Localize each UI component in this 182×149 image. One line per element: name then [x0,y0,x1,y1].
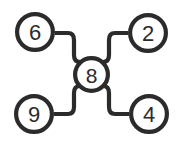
edge-bottom-left-to-center [54,86,83,114]
node-label-bottom-left: 9 [28,102,40,127]
node-bottom-left[interactable]: 9 [16,96,52,132]
node-bottom-right[interactable]: 4 [131,96,167,132]
node-label-top-left: 6 [29,20,41,45]
node-link-diagram: 6 2 9 4 8 [0,0,182,149]
node-label-top-right: 2 [142,21,154,46]
diagram-canvas: 6 2 9 4 8 [0,0,182,149]
node-label-bottom-right: 4 [143,102,155,127]
node-label-center: 8 [86,64,98,87]
node-top-right[interactable]: 2 [130,15,166,51]
edge-top-right-to-center [100,33,128,62]
edge-top-left-to-center [55,33,83,62]
node-top-left[interactable]: 6 [17,14,53,50]
edge-bottom-right-to-center [100,86,129,114]
node-center[interactable]: 8 [75,58,108,91]
